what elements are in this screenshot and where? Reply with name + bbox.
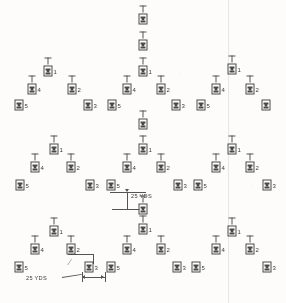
soldier-figure-icon: 5 [107, 178, 116, 191]
soldier-figure-icon: 1 [139, 64, 148, 77]
soldier-figure-icon: 4 [212, 242, 221, 255]
dimension-arrow-left [82, 275, 85, 279]
soldier-figure-icon: 4 [123, 82, 132, 95]
soldier-figure-icon: 5 [192, 260, 201, 273]
soldier-figure-icon: 3 [84, 98, 93, 111]
soldier-figure-icon: 1 [139, 222, 148, 235]
diagram-canvas: 25 YDS ⁄ 25 YDS 114253425314251142534253… [0, 0, 286, 303]
soldier-figure-icon: 1 [50, 224, 59, 237]
soldier-figure-icon: 2 [246, 160, 255, 173]
figure-position-number: 1 [149, 227, 152, 233]
soldier-figure-icon [139, 117, 148, 130]
figure-position-number: 4 [133, 247, 136, 253]
soldier-figure-icon: 4 [31, 242, 40, 255]
figure-position-number: 2 [167, 165, 170, 171]
soldier-figure-icon: 4 [31, 160, 40, 173]
dimension-tick-right [105, 272, 106, 282]
figure-position-number: 3 [96, 183, 99, 189]
dimension-line-vertical [127, 192, 128, 210]
figure-position-number: 1 [149, 69, 152, 75]
soldier-figure-icon: 5 [15, 260, 24, 273]
horizontal-spacing-label: 25 YDS [26, 275, 47, 281]
figure-position-number: 1 [238, 147, 241, 153]
figure-position-number: 2 [78, 87, 81, 93]
figure-position-number: 3 [182, 103, 185, 109]
figure-position-number: 1 [149, 147, 152, 153]
figure-position-number: 3 [95, 265, 98, 271]
soldier-figure-icon: 2 [157, 82, 166, 95]
leader-line [62, 274, 82, 278]
soldier-figure-icon [139, 12, 148, 25]
figure-position-number: 2 [167, 247, 170, 253]
figure-position-number: 2 [77, 247, 80, 253]
figure-position-number: 3 [273, 265, 276, 271]
figure-position-number: 3 [183, 265, 186, 271]
figure-position-number: 5 [204, 183, 207, 189]
soldier-figure-icon: 1 [228, 224, 237, 237]
soldier-figure-icon [139, 38, 148, 51]
soldier-figure-icon: 2 [246, 82, 255, 95]
soldier-figure-icon: 4 [212, 160, 221, 173]
soldier-figure-icon: 5 [194, 178, 203, 191]
soldier-figure-icon: 3 [263, 178, 272, 191]
soldier-figure-icon: 5 [197, 98, 206, 111]
figure-position-number: 3 [94, 103, 97, 109]
soldier-figure-icon: 1 [139, 142, 148, 155]
figure-position-number: 1 [60, 229, 63, 235]
soldier-figure-icon: 2 [67, 160, 76, 173]
soldier-figure-icon [262, 98, 271, 111]
dimension-arrow-up [125, 189, 129, 192]
figure-position-number: 5 [202, 265, 205, 271]
figure-position-number: 2 [167, 87, 170, 93]
soldier-figure-icon: 1 [228, 62, 237, 75]
soldier-figure-icon: 2 [67, 242, 76, 255]
soldier-figure-icon: 4 [123, 242, 132, 255]
figure-position-number: 5 [26, 183, 29, 189]
figure-position-number: 1 [54, 69, 57, 75]
soldier-figure-icon: 3 [172, 98, 181, 111]
soldier-figure-icon: 5 [108, 98, 117, 111]
soldier-figure-icon: 3 [85, 260, 94, 273]
figure-position-number: 5 [207, 103, 210, 109]
figure-position-number: 4 [222, 247, 225, 253]
figure-position-number: 2 [256, 165, 259, 171]
figure-position-number: 5 [25, 265, 28, 271]
soldier-figure-icon: 1 [228, 142, 237, 155]
figure-position-number: 4 [41, 165, 44, 171]
figure-position-number: 4 [41, 247, 44, 253]
soldier-figure-icon: 1 [44, 64, 53, 77]
figure-position-number: 5 [117, 183, 120, 189]
soldier-figure-icon: 5 [16, 178, 25, 191]
figure-position-number: 1 [238, 67, 241, 73]
figure-position-number: 1 [238, 229, 241, 235]
soldier-figure-icon: 4 [123, 160, 132, 173]
soldier-figure-icon: 5 [15, 98, 24, 111]
soldier-figure-icon: 4 [212, 82, 221, 95]
soldier-figure-icon [139, 202, 148, 215]
figure-position-number: 3 [184, 183, 187, 189]
figure-position-number: 4 [38, 87, 41, 93]
leader-squiggle: ⁄ [69, 258, 70, 267]
figure-position-number: 4 [222, 87, 225, 93]
soldier-figure-icon: 3 [174, 178, 183, 191]
figure-position-number: 5 [25, 103, 28, 109]
figure-position-number: 3 [273, 183, 276, 189]
figure-position-number: 4 [133, 87, 136, 93]
soldier-figure-icon: 3 [263, 260, 272, 273]
soldier-figure-icon: 2 [246, 242, 255, 255]
soldier-figure-icon: 4 [28, 82, 37, 95]
figure-position-number: 2 [256, 247, 259, 253]
figure-position-number: 4 [222, 165, 225, 171]
figure-position-number: 2 [256, 87, 259, 93]
figure-position-number: 5 [118, 103, 121, 109]
soldier-figure-icon: 3 [86, 178, 95, 191]
soldier-figure-icon: 5 [107, 260, 116, 273]
soldier-figure-icon: 2 [157, 242, 166, 255]
soldier-figure-icon: 2 [157, 160, 166, 173]
soldier-figure-icon: 1 [50, 142, 59, 155]
figure-position-number: 5 [117, 265, 120, 271]
figure-position-number: 1 [60, 147, 63, 153]
figure-position-number: 2 [77, 165, 80, 171]
soldier-figure-icon: 3 [173, 260, 182, 273]
figure-position-number: 4 [133, 165, 136, 171]
